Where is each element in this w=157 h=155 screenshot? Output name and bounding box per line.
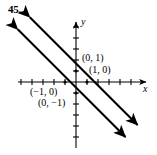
point-1-0-marker [85,80,88,83]
line-upper [30,17,138,125]
point-label-0-neg1: (0, −1) [38,97,65,108]
point-label-0-1: (0, 1) [82,52,104,63]
point-0-neg1-marker [74,91,77,94]
point-label-1-0: (1, 0) [89,64,111,75]
x-axis [18,79,146,85]
y-axis-label: y [81,16,85,27]
x-axis-label: x [143,83,147,94]
point-neg1-0-marker [63,80,66,83]
point-0-1-marker [74,69,77,72]
coordinate-plane-graphic [0,0,157,155]
math-figure: 45. [0,0,157,155]
point-label-neg1-0: (−1, 0) [30,86,57,97]
